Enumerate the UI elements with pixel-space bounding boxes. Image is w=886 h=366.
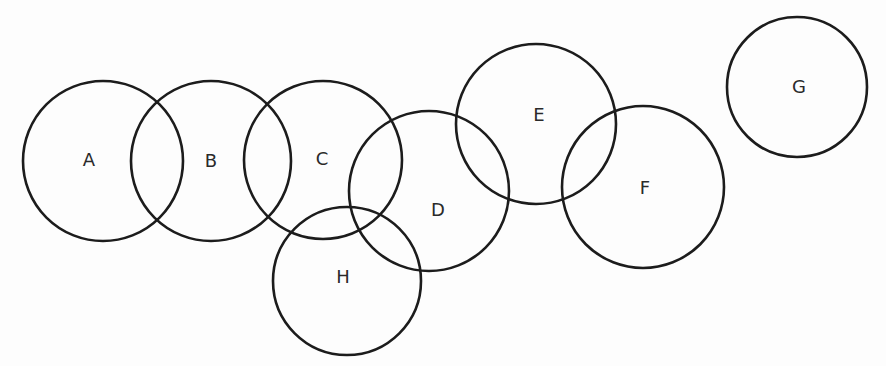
circle-d [349, 111, 509, 271]
label-f: F [640, 177, 650, 198]
circle-diagram: A B C D E F G H [0, 0, 886, 366]
circle-group-d: D [349, 111, 509, 271]
label-e: E [533, 104, 544, 125]
circle-group-g: G [727, 17, 867, 157]
label-a: A [83, 149, 96, 170]
label-h: H [336, 266, 350, 287]
label-b: B [205, 150, 217, 171]
circle-group-h: H [273, 207, 421, 355]
circle-a [23, 81, 183, 241]
circle-group-a: A [23, 81, 183, 241]
label-d: D [431, 199, 445, 220]
label-c: C [316, 148, 329, 169]
label-g: G [792, 76, 806, 97]
